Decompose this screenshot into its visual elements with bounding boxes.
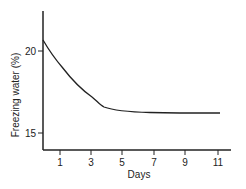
y-tick-20: 20 — [25, 46, 37, 57]
x-tick-5: 5 — [119, 157, 125, 168]
x-tick-1: 1 — [57, 157, 63, 168]
y-tick-15: 15 — [25, 128, 37, 139]
data-line — [43, 40, 220, 113]
x-axis-label: Days — [128, 169, 151, 180]
x-tick-11: 11 — [213, 157, 224, 168]
line-chart: 20 15 1 3 5 7 9 11 Days Freezing water (… — [0, 0, 246, 189]
x-tick-7: 7 — [151, 157, 157, 168]
y-axis-label: Freezing water (%) — [10, 53, 21, 137]
x-tick-9: 9 — [182, 157, 188, 168]
x-tick-3: 3 — [88, 157, 94, 168]
